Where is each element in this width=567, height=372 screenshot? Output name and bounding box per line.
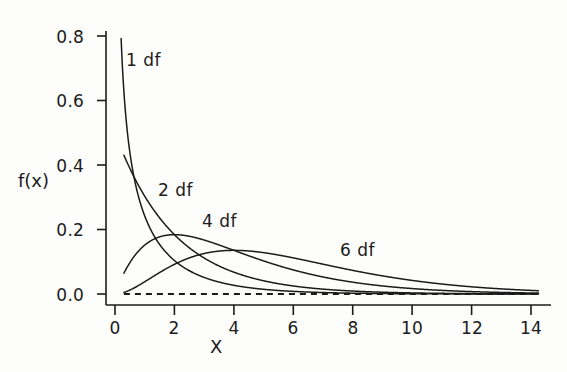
curve-1-df: [121, 38, 538, 293]
curve-2-df: [124, 155, 539, 294]
x-axis-title: X: [210, 336, 222, 357]
x-tick-label-1: 2: [154, 318, 194, 338]
y-tick-label-1: 0.6: [32, 91, 84, 111]
x-tick-label-6: 12: [452, 318, 492, 338]
chart-figure: 0.8 0.6 0.4 0.2 0.0 0 2 4 6 8 10 12 14 f…: [0, 0, 567, 372]
x-tick-label-0: 0: [95, 318, 135, 338]
series-label-4df: 4 df: [202, 211, 237, 231]
x-tick-label-3: 6: [273, 318, 313, 338]
x-tick-label-4: 8: [333, 318, 373, 338]
x-tick-label-7: 14: [511, 318, 551, 338]
y-tick-label-0: 0.8: [32, 27, 84, 47]
series-label-2df: 2 df: [158, 180, 193, 200]
y-tick-label-3: 0.2: [32, 220, 84, 240]
series-label-6df: 6 df: [340, 240, 375, 260]
x-tick-label-5: 10: [392, 318, 432, 338]
series-label-1df: 1 df: [126, 50, 161, 70]
curve-6-df: [124, 250, 539, 292]
y-axis-ticks: [97, 36, 106, 294]
chart-plot-area: [0, 0, 567, 372]
y-tick-label-4: 0.0: [32, 285, 84, 305]
y-axis-title: f(x): [18, 170, 49, 191]
curve-4-df: [124, 235, 539, 293]
x-tick-label-2: 4: [214, 318, 254, 338]
data-curves: [121, 38, 538, 293]
x-axis-ticks: [115, 305, 531, 315]
